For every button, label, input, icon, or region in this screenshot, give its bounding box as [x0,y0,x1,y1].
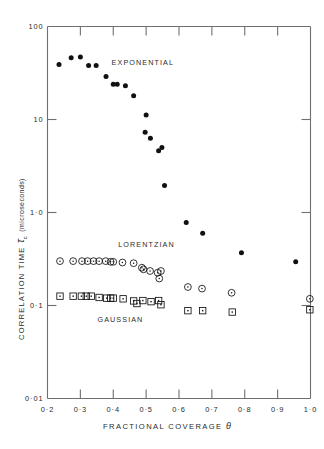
marker-dot [201,288,203,290]
y-tick-label-0p01: 0·01 [2,394,44,403]
annotation-lorentzian: LORENTZIAN [118,240,175,249]
x-tick-label-0p2: 0·2 [32,405,64,414]
data-point-exponential-4 [94,63,99,68]
marker-dot [72,260,74,262]
marker-dot [143,269,145,271]
marker-dot [81,260,83,262]
marker-dot [81,295,82,296]
data-point-exponential-2 [78,54,83,59]
x-axis-title: FRACTIONAL COVERAGE θ [103,421,231,431]
data-point-exponential-12 [148,136,153,141]
y-axis-units: (microseconds) [18,178,25,231]
marker-dot [113,297,114,298]
marker-dot [232,311,233,312]
theta-symbol: θ [226,421,231,431]
x-tick-label-0p8: 0·8 [229,405,261,414]
marker-dot [309,298,311,300]
x-tick-label-0p6: 0·6 [163,405,195,414]
marker-dot [91,295,92,296]
marker-dot [150,301,151,302]
marker-dot [160,304,161,305]
marker-dot [59,295,60,296]
data-point-exponential-8 [123,83,128,88]
figure-container: 100 10 1·0 0·1 0·01 0·2 0·3 0·4 0·5 0·6 … [0,0,324,449]
data-point-exponential-5 [104,74,109,79]
marker-dot [158,300,159,301]
x-tick-label-0p4: 0·4 [97,405,129,414]
marker-dot [98,260,100,262]
data-point-exponential-15 [162,183,167,188]
data-point-exponential-18 [239,250,244,255]
data-point-exponential-1 [69,55,74,60]
marker-dot [136,303,137,304]
marker-dot [122,298,123,299]
x-tick-label-0p5: 0·5 [130,405,162,414]
marker-dot [187,286,189,288]
data-point-exponential-17 [200,231,205,236]
data-point-exponential-3 [86,63,91,68]
marker-dot [231,292,233,294]
annotation-gaussian: GAUSSIAN [97,315,143,324]
series-gaussian [57,293,313,315]
x-axis-title-text: FRACTIONAL COVERAGE [103,422,223,431]
marker-dot [309,309,310,310]
y-axis-title: CORRELATION TIME τc (microseconds) [14,178,28,340]
marker-dot [93,260,95,262]
marker-dot [72,295,73,296]
tau-subscript: c [22,235,28,239]
marker-dot [187,310,188,311]
series-exponential [57,54,299,264]
x-tick-label-0p3: 0·3 [64,405,96,414]
annotation-exponential: EXPONENTIAL [112,58,174,67]
y-tick-label-100: 100 [2,22,44,31]
marker-dot [87,260,89,262]
marker-dot [133,262,135,264]
x-tick-label-1p0: 1·0 [295,405,324,414]
series-lorentzian [57,258,314,302]
data-point-exponential-0 [57,62,62,67]
y-axis-title-text: CORRELATION TIME [17,246,26,340]
marker-dot [160,270,162,272]
marker-dot [98,297,99,298]
data-point-exponential-10 [144,112,149,117]
tau-symbol: τ [14,239,26,243]
marker-dot [122,262,124,264]
marker-dot [113,261,115,263]
data-point-exponential-9 [131,93,136,98]
data-point-exponential-16 [184,220,189,225]
marker-dot [59,260,61,262]
marker-dot [105,260,107,262]
y-tick-label-10: 10 [2,115,44,124]
plot-canvas [0,0,324,449]
marker-dot [159,278,161,280]
data-point-exponential-19 [293,259,298,264]
x-tick-label-0p9: 0·9 [262,405,294,414]
x-tick-label-0p7: 0·7 [196,405,228,414]
marker-dot [142,300,143,301]
marker-dot [149,270,151,272]
data-point-exponential-11 [143,130,148,135]
data-point-exponential-7 [115,82,120,87]
marker-dot [86,295,87,296]
marker-dot [202,310,203,311]
data-point-exponential-14 [159,145,164,150]
